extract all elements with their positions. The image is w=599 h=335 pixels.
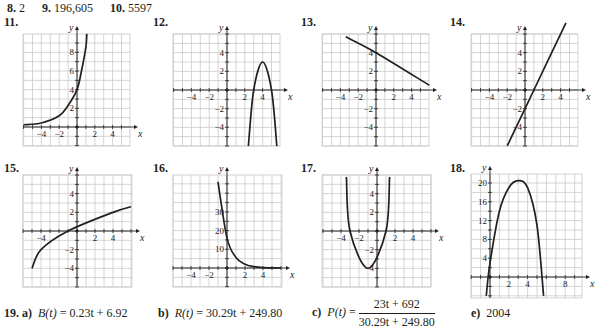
answer-19c: c) P(t) = 23t + 692 30.29t + 249.80 [312,297,435,330]
curve [486,181,543,296]
svg-text:y: y [481,162,487,173]
svg-text:2: 2 [507,279,512,289]
graph-18: 24848121620xy [0,0,599,335]
answer-19e: e) 2004 [471,306,510,321]
fraction: 23t + 692 30.29t + 249.80 [359,297,435,330]
svg-text:8: 8 [563,279,568,289]
svg-text:12: 12 [478,216,487,226]
answer-19a: 19. a) B(t) = 0.23t + 6.92 [4,306,128,321]
svg-text:20: 20 [478,178,488,188]
svg-text:4: 4 [525,279,530,289]
numerator: 23t + 692 [359,297,435,314]
svg-text:x: x [589,278,595,289]
answer-19b: b) R(t) = 30.29t + 249.80 [158,306,282,321]
denominator: 30.29t + 249.80 [359,314,435,330]
svg-text:16: 16 [478,197,488,207]
svg-text:4: 4 [483,253,488,263]
svg-text:8: 8 [483,234,488,244]
